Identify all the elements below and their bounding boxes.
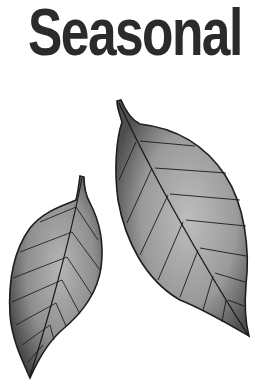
leaves-illustration [0,0,255,384]
large-leaf-icon [116,100,249,336]
small-leaf-icon [10,176,102,378]
